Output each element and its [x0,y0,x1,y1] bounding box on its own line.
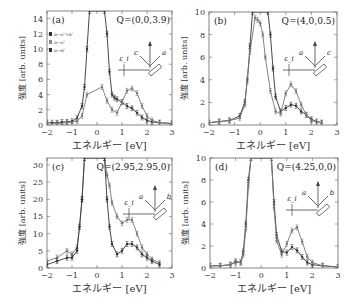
data-point [106,99,108,101]
data-point [103,10,105,12]
data-point [111,93,113,95]
data-point [291,246,293,248]
data-point [126,243,128,245]
x-tick-label: 1 [119,128,124,137]
q-vector-label: Q=(0,0,3.9) [117,15,170,25]
data-point [158,263,160,265]
data-point [310,119,312,121]
y-axis-label: 強度 [arb. units] [17,181,27,245]
data-point [300,103,302,105]
inset-axis-label: a [139,193,143,201]
data-point [141,246,143,248]
arrowhead [153,185,157,190]
data-point [46,122,48,124]
data-point [218,120,220,122]
y-tick-label: 2 [38,106,43,115]
data-point [306,261,308,263]
data-point [111,201,113,203]
data-point [285,92,287,94]
y-tick-label: 4 [201,220,206,229]
data-point [290,103,292,105]
data-point [279,113,281,115]
data-point [116,253,118,255]
data-point [141,253,143,255]
data-point [106,198,108,200]
data-point [295,105,297,107]
data-point [273,206,275,208]
data-point [320,122,322,124]
data-point [111,109,113,111]
inset-axis-label: a [162,49,166,57]
axis-arrow-left [308,196,318,206]
y-tick-label: 14 [33,15,43,24]
data-point [274,110,276,112]
arrowhead [316,181,320,186]
data-point [108,71,110,73]
data-point [113,96,115,98]
data-point [311,261,313,263]
x-axis-label: エネルギー [eV] [72,283,146,294]
data-point [264,56,266,58]
data-point [300,110,302,112]
data-point [81,198,83,200]
q-vector-label: Q=(4,0,0.5) [282,16,335,26]
polarization-label: ε_i [287,195,297,203]
data-point [136,232,138,234]
y-tick-label: 0 [201,264,206,273]
data-point [146,256,148,258]
data-point [234,261,236,263]
y-tick-label: 2 [201,242,206,251]
x-tick-label: 1 [284,271,289,280]
x-axis-label: エネルギー [eV] [237,283,311,294]
x-tick-label: 3 [334,128,339,137]
data-point [111,243,113,245]
data-point [86,48,88,50]
x-tick-label: 3 [169,271,174,280]
data-point [141,105,143,107]
y-tick-label: 25 [33,178,43,187]
panel-label: (a) [52,15,64,25]
data-point [121,250,123,252]
axis-arrow-left [305,56,315,66]
y-tick-label: 10 [33,230,43,239]
data-point [296,226,298,228]
data-point [121,222,123,224]
data-point [146,119,148,121]
figure: −2−1012302468101214エネルギー [eV]強度 [arb. un… [0,0,349,304]
data-point [208,122,210,124]
data-point [242,254,244,256]
y-tick-label: 30 [33,161,43,170]
data-point [126,90,128,92]
y-tick-label: 8 [201,176,206,185]
panel-c: −2−10123051015202530エネルギー [eV]強度 [arb. u… [17,156,175,295]
x-tick-label: 1 [283,128,288,137]
data-point [56,260,58,262]
data-point [250,157,252,159]
series-group [208,10,324,126]
data-point [256,19,258,21]
panel-d: −2−101230246810エネルギー [eV]強度 [arb. units]… [180,154,341,294]
data-point [301,240,303,242]
inset-axis-label: b [330,189,335,197]
x-tick-label: 0 [94,128,99,137]
data-point [81,105,83,107]
scattering-geometry-inset: caε_i [118,41,166,76]
data-point [259,22,261,24]
series-group [46,9,174,126]
scattering-geometry-inset: abε_i [123,185,172,220]
data-point [275,239,277,241]
data-point [76,250,78,252]
data-point [274,96,276,98]
panel-label: (d) [215,162,228,172]
data-point [126,219,128,221]
data-point [219,265,221,267]
data-point [136,112,138,114]
data-point [66,250,68,252]
data-point [254,16,256,18]
data-point [103,157,105,159]
x-tick-label: 2 [309,128,314,137]
legend-marker [49,32,52,36]
data-point [101,86,103,88]
x-axis-label: エネルギー [eV] [72,140,146,151]
x-tick-label: 3 [335,271,340,280]
